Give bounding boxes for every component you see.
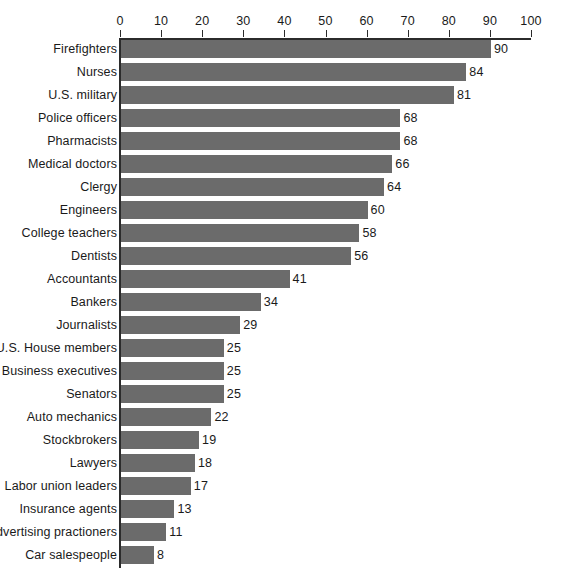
bar-value-label: 64 [387, 178, 401, 196]
bar [121, 316, 240, 334]
x-axis-tick-mark [161, 30, 162, 37]
x-axis-tick-label: 40 [277, 14, 291, 28]
bar-category-label: U.S. House members [0, 339, 117, 357]
x-axis-tick-label: 70 [401, 14, 415, 28]
bar-value-label: 22 [214, 408, 228, 426]
bar-category-label: Lawyers [70, 454, 117, 472]
bar [121, 362, 224, 380]
bar-row: Medical doctors66 [0, 155, 561, 178]
bar-row: Labor union leaders17 [0, 477, 561, 500]
bar-row: Lawyers18 [0, 454, 561, 477]
bar-value-label: 58 [362, 224, 376, 242]
x-axis-tick-mark [243, 30, 244, 37]
bar [121, 270, 290, 288]
bar-category-label: U.S. military [48, 86, 117, 104]
bar-category-label: Dentists [71, 247, 117, 265]
bar-value-label: 29 [243, 316, 257, 334]
bar [121, 339, 224, 357]
bar-category-label: Nurses [77, 63, 117, 81]
bar [121, 431, 199, 449]
plot-area: Firefighters90Nurses84U.S. military81Pol… [0, 40, 561, 569]
bar-category-label: Engineers [60, 201, 117, 219]
x-axis-tick-mark [284, 30, 285, 37]
bar-row: Nurses84 [0, 63, 561, 86]
x-axis-tick-label: 30 [236, 14, 250, 28]
bar [121, 224, 359, 242]
bar-value-label: 34 [264, 293, 278, 311]
bar [121, 454, 195, 472]
bar-value-label: 19 [202, 431, 216, 449]
bar-row: Engineers60 [0, 201, 561, 224]
bar-row: College teachers58 [0, 224, 561, 247]
bar [121, 385, 224, 403]
bar-value-label: 66 [395, 155, 409, 173]
bar-category-label: Car salespeople [25, 546, 117, 564]
bar-row: Stockbrokers19 [0, 431, 561, 454]
bar [121, 201, 368, 219]
bar-row: Advertising practioners11 [0, 523, 561, 546]
bar-category-label: Business executives [2, 362, 117, 380]
bar-category-label: Police officers [38, 109, 117, 127]
x-axis-tick-label: 20 [195, 14, 209, 28]
bar-row: U.S. House members25 [0, 339, 561, 362]
x-axis-tick-mark [490, 30, 491, 37]
bar-value-label: 68 [403, 109, 417, 127]
bar [121, 247, 351, 265]
bar [121, 155, 392, 173]
bar [121, 86, 454, 104]
bar-row: Insurance agents13 [0, 500, 561, 523]
x-axis-tick-mark [449, 30, 450, 37]
bar-category-label: Senators [66, 385, 117, 403]
bar-row: Dentists56 [0, 247, 561, 270]
x-axis-tick-mark [120, 30, 121, 37]
bar-row: Auto mechanics22 [0, 408, 561, 431]
bar-category-label: Auto mechanics [27, 408, 117, 426]
bar-row: Car salespeople8 [0, 546, 561, 569]
bar-row: Business executives25 [0, 362, 561, 385]
bar-chart: 0102030405060708090100 Firefighters90Nur… [0, 0, 561, 578]
bar-row: Clergy64 [0, 178, 561, 201]
x-axis-tick-label: 80 [442, 14, 456, 28]
bar [121, 500, 174, 518]
bar-category-label: College teachers [22, 224, 117, 242]
bar-category-label: Clergy [80, 178, 117, 196]
bar-value-label: 18 [198, 454, 212, 472]
bar-category-label: Labor union leaders [5, 477, 117, 495]
x-axis-tick-label: 50 [318, 14, 332, 28]
bar-category-label: Insurance agents [20, 500, 118, 518]
bar-row: Accountants41 [0, 270, 561, 293]
bar-row: U.S. military81 [0, 86, 561, 109]
bar-value-label: 41 [293, 270, 307, 288]
x-axis-tick-label: 100 [520, 14, 541, 28]
bar-row: Pharmacists68 [0, 132, 561, 155]
bar [121, 408, 211, 426]
bar-value-label: 13 [177, 500, 191, 518]
bar [121, 109, 400, 127]
x-axis-tick-label: 60 [359, 14, 373, 28]
x-axis-tick-label: 10 [154, 14, 168, 28]
bar-category-label: Firefighters [53, 40, 117, 58]
x-axis-tick-mark [202, 30, 203, 37]
bar [121, 63, 466, 81]
bar-category-label: Stockbrokers [43, 431, 117, 449]
x-axis: 0102030405060708090100 [0, 0, 561, 45]
bar-row: Journalists29 [0, 316, 561, 339]
bar [121, 178, 384, 196]
bar-value-label: 56 [354, 247, 368, 265]
x-axis-tick-label: 90 [483, 14, 497, 28]
bar [121, 523, 166, 541]
bar [121, 293, 261, 311]
bar-category-label: Bankers [70, 293, 117, 311]
bar-category-label: Advertising practioners [0, 523, 117, 541]
bar-row: Firefighters90 [0, 40, 561, 63]
bar-category-label: Journalists [56, 316, 117, 334]
x-axis-tick-label: 0 [116, 14, 123, 28]
bar-category-label: Medical doctors [28, 155, 117, 173]
bar-category-label: Pharmacists [47, 132, 117, 150]
bar [121, 40, 491, 58]
x-axis-tick-mark [326, 30, 327, 37]
x-axis-tick-mark [408, 30, 409, 37]
bar-row: Bankers34 [0, 293, 561, 316]
bar-row: Police officers68 [0, 109, 561, 132]
bar-value-label: 8 [157, 546, 164, 564]
